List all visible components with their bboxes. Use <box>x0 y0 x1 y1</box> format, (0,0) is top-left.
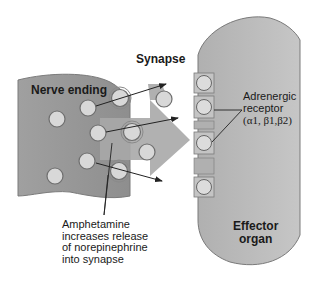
adrenergic-receptor-label: Adrenergic receptor (α1, β1,β2) <box>243 90 296 126</box>
amphetamine-note-line-4: into synapse <box>62 254 148 266</box>
receptor-label-line-1: Adrenergic <box>243 90 296 102</box>
effector-organ-label: Effector organ <box>233 220 278 246</box>
receptor-label-line-3: (α1, β1,β2) <box>243 114 296 126</box>
receptor-label-line-2: receptor <box>243 102 296 114</box>
amphetamine-note-line-3: of norepinephrine <box>62 242 148 254</box>
nerve-ending-label: Nerve ending <box>31 83 107 97</box>
amphetamine-note-line-1: Amphetamine <box>62 219 148 231</box>
amphetamine-note: Amphetamine increases release of norepin… <box>62 219 148 265</box>
synapse-label: Synapse <box>136 52 185 66</box>
effector-label-line-2: organ <box>233 233 278 246</box>
